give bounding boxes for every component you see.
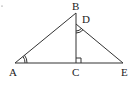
geometry-figure: B D A C E xyxy=(0,0,132,99)
label-b: B xyxy=(72,0,79,12)
angle-arc-a-inner xyxy=(23,57,25,64)
label-e: E xyxy=(121,66,128,78)
label-d: D xyxy=(82,13,90,25)
label-a: A xyxy=(9,66,17,78)
label-c: C xyxy=(72,66,79,78)
right-angle-mark-c xyxy=(76,58,81,63)
stray-dot xyxy=(1,5,2,6)
angle-arc-d-inner xyxy=(76,29,81,32)
